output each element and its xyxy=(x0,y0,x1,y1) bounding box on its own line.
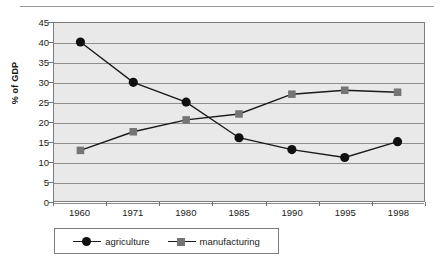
data-point-agriculture-1980 xyxy=(182,98,191,107)
x-axis-tick-mark xyxy=(159,202,160,206)
data-point-manufacturing-1971 xyxy=(130,128,138,136)
data-point-agriculture-1995 xyxy=(340,153,349,162)
data-point-manufacturing-1960 xyxy=(77,147,85,155)
legend-item-agriculture: agriculture xyxy=(73,235,149,247)
data-point-manufacturing-1995 xyxy=(341,86,349,94)
y-axis-tick-label: 30 xyxy=(9,77,49,88)
y-axis-tick-label: 35 xyxy=(9,57,49,68)
x-axis-tick-mark xyxy=(319,202,320,206)
y-axis-tick-label: 45 xyxy=(9,17,49,28)
square-marker-icon xyxy=(168,235,196,247)
chart-figure: % of GDP 051015202530354045 196019711980… xyxy=(0,0,444,265)
x-axis-tick-label: 1985 xyxy=(209,207,269,218)
data-point-agriculture-1985 xyxy=(234,133,243,142)
y-axis-tick-label: 20 xyxy=(9,117,49,128)
chart-legend: agriculture manufacturing xyxy=(54,228,279,254)
y-axis-tick-label: 25 xyxy=(9,97,49,108)
circle-marker-icon xyxy=(73,235,101,247)
y-axis-tick-label: 5 xyxy=(9,177,49,188)
gridline xyxy=(54,203,424,204)
data-point-agriculture-1998 xyxy=(393,137,402,146)
x-axis-tick-label: 1990 xyxy=(262,207,322,218)
y-axis-tick-label: 15 xyxy=(9,137,49,148)
data-point-manufacturing-1990 xyxy=(288,90,296,98)
data-point-manufacturing-1985 xyxy=(235,110,243,118)
x-axis-tick-mark xyxy=(212,202,213,206)
legend-label-manufacturing: manufacturing xyxy=(200,236,260,247)
x-axis-tick-mark xyxy=(266,202,267,206)
data-point-agriculture-1971 xyxy=(129,78,138,87)
x-axis-tick-mark xyxy=(53,202,54,206)
top-divider-rule xyxy=(20,6,434,7)
data-point-agriculture-1960 xyxy=(76,37,85,46)
x-axis-tick-label: 1971 xyxy=(103,207,163,218)
plot-area xyxy=(53,22,425,202)
x-axis-tick-mark xyxy=(372,202,373,206)
y-axis-tick-label: 0 xyxy=(9,197,49,208)
x-axis-tick-mark xyxy=(106,202,107,206)
x-axis-tick-label: 1998 xyxy=(368,207,428,218)
data-series-layer xyxy=(54,23,424,201)
legend-label-agriculture: agriculture xyxy=(105,236,149,247)
x-axis-tick-label: 1960 xyxy=(50,207,110,218)
y-axis-tick-label: 10 xyxy=(9,157,49,168)
x-axis-tick-mark xyxy=(425,202,426,206)
data-point-manufacturing-1980 xyxy=(182,116,190,124)
data-point-manufacturing-1998 xyxy=(394,88,402,96)
x-axis-tick-label: 1995 xyxy=(315,207,375,218)
data-point-agriculture-1990 xyxy=(287,145,296,154)
x-axis-tick-label: 1980 xyxy=(156,207,216,218)
y-axis-tick-label: 40 xyxy=(9,37,49,48)
legend-item-manufacturing: manufacturing xyxy=(168,235,260,247)
